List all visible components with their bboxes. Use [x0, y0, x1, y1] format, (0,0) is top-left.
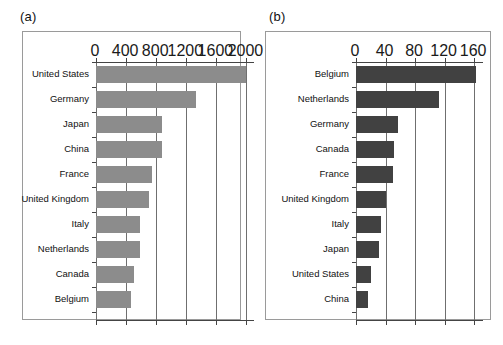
x-tick-label: 120	[430, 44, 457, 57]
gridline	[445, 63, 446, 320]
y-tick-mark	[352, 137, 356, 138]
bar	[356, 216, 381, 233]
y-tick-mark	[92, 187, 96, 188]
y-tick-mark	[352, 287, 356, 288]
bar	[96, 91, 196, 108]
bar	[356, 241, 379, 258]
category-label: France	[0, 168, 89, 179]
bar	[356, 116, 398, 133]
gridline	[216, 63, 217, 320]
bar	[356, 266, 371, 283]
bar	[96, 216, 140, 233]
gridline	[246, 63, 247, 320]
category-label: United Kingdom	[251, 193, 349, 204]
category-label: Belgium	[0, 293, 89, 304]
y-tick-mark	[92, 262, 96, 263]
x-axis-line	[356, 62, 483, 63]
x-tick-label: 80	[405, 44, 423, 57]
x-tick-label: 0	[91, 44, 100, 57]
x-tick-label: 0	[351, 44, 360, 57]
category-label: Netherlands	[0, 243, 89, 254]
y-tick-mark	[352, 312, 356, 313]
x-tick-mark-bottom	[246, 321, 247, 325]
x-tick-label: 40	[376, 44, 394, 57]
category-label: United States	[0, 68, 89, 79]
bar	[356, 191, 386, 208]
x-axis-line	[96, 62, 254, 63]
bar	[356, 91, 439, 108]
category-label: Netherlands	[251, 93, 349, 104]
y-tick-mark	[92, 112, 96, 113]
bar	[356, 291, 368, 308]
y-tick-mark	[92, 62, 96, 63]
figure-two-panel-bar-charts: (a) United StatesGermanyJapanChinaFrance…	[0, 0, 503, 345]
x-tick-label: 400	[112, 44, 139, 57]
panel-a: (a) United StatesGermanyJapanChinaFrance…	[0, 0, 251, 345]
category-label: Italy	[0, 218, 89, 229]
y-tick-mark	[352, 62, 356, 63]
category-label: Belgium	[251, 68, 349, 79]
bar	[96, 291, 131, 308]
y-tick-mark	[92, 287, 96, 288]
x-tick-mark-bottom	[474, 321, 475, 325]
category-label: United Kingdom	[0, 193, 89, 204]
bar	[96, 191, 149, 208]
category-label: Germany	[0, 93, 89, 104]
category-label: Japan	[0, 118, 89, 129]
y-tick-mark	[352, 87, 356, 88]
x-tick-mark-bottom	[386, 321, 387, 325]
x-tick-mark-bottom	[356, 321, 357, 325]
y-tick-mark	[92, 162, 96, 163]
x-tick-label: 160	[460, 44, 487, 57]
category-label: China	[0, 143, 89, 154]
category-label: France	[251, 168, 349, 179]
bar	[356, 166, 393, 183]
y-tick-mark	[352, 212, 356, 213]
y-tick-mark	[352, 187, 356, 188]
x-tick-mark-bottom	[186, 321, 187, 325]
x-tick-mark-bottom	[216, 321, 217, 325]
x-tick-mark-bottom	[126, 321, 127, 325]
panel-b: (b) BelgiumNetherlandsGermanyCanadaFranc…	[251, 0, 503, 345]
category-label: China	[251, 293, 349, 304]
bar	[96, 141, 162, 158]
category-label: Italy	[251, 218, 349, 229]
y-tick-mark	[92, 137, 96, 138]
y-tick-mark	[92, 212, 96, 213]
category-label: Japan	[251, 243, 349, 254]
bar	[96, 266, 134, 283]
category-label: Canada	[0, 268, 89, 279]
bar	[356, 66, 476, 83]
category-label: Germany	[251, 118, 349, 129]
bar	[96, 116, 162, 133]
y-tick-mark	[92, 312, 96, 313]
x-axis-baseline	[96, 320, 254, 321]
y-tick-mark	[92, 87, 96, 88]
bar	[96, 241, 140, 258]
y-tick-mark	[352, 112, 356, 113]
x-tick-label: 800	[142, 44, 169, 57]
x-tick-mark-bottom	[415, 321, 416, 325]
x-tick-mark-bottom	[445, 321, 446, 325]
category-label: United States	[251, 268, 349, 279]
y-tick-mark	[92, 237, 96, 238]
y-tick-mark	[352, 237, 356, 238]
y-tick-mark	[352, 162, 356, 163]
panel-a-tag: (a)	[20, 10, 37, 24]
x-tick-mark-bottom	[96, 321, 97, 325]
x-tick-mark-bottom	[156, 321, 157, 325]
bar	[96, 166, 152, 183]
bar	[356, 141, 394, 158]
panel-b-tag: (b)	[269, 10, 286, 24]
y-tick-mark	[352, 262, 356, 263]
gridline	[474, 63, 475, 320]
x-axis-baseline	[356, 320, 483, 321]
category-label: Canada	[251, 143, 349, 154]
bar	[96, 66, 246, 83]
